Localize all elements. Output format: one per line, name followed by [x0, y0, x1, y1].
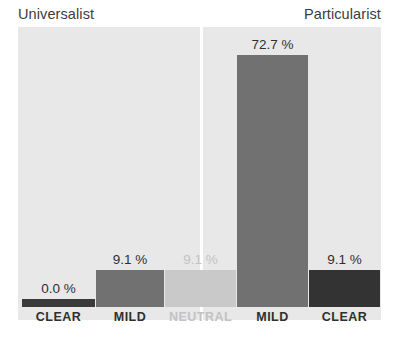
bar-value-label: 9.1 %	[309, 252, 380, 267]
bar	[22, 299, 95, 307]
group-title-universalist: Universalist	[18, 6, 94, 22]
axis-label-clear-0: CLEAR	[22, 310, 95, 324]
bar	[237, 55, 308, 307]
bar-value-label: 9.1 %	[96, 252, 164, 267]
group-title-particularist: Particularist	[304, 6, 381, 22]
axis-label-neutral-2: NEUTRAL	[165, 310, 236, 324]
bar	[96, 270, 164, 307]
bar	[165, 270, 236, 307]
bar-value-label: 72.7 %	[237, 37, 308, 52]
bar	[309, 270, 380, 307]
axis-label-mild-1: MILD	[96, 310, 164, 324]
chart-container: Universalist Particularist 0.0 %CLEAR9.1…	[0, 0, 398, 346]
bar-value-label: 9.1 %	[165, 252, 236, 267]
chart-caption	[0, 330, 398, 346]
axis-label-clear-4: CLEAR	[309, 310, 380, 324]
bar-value-label: 0.0 %	[22, 281, 95, 296]
axis-label-mild-3: MILD	[237, 310, 308, 324]
